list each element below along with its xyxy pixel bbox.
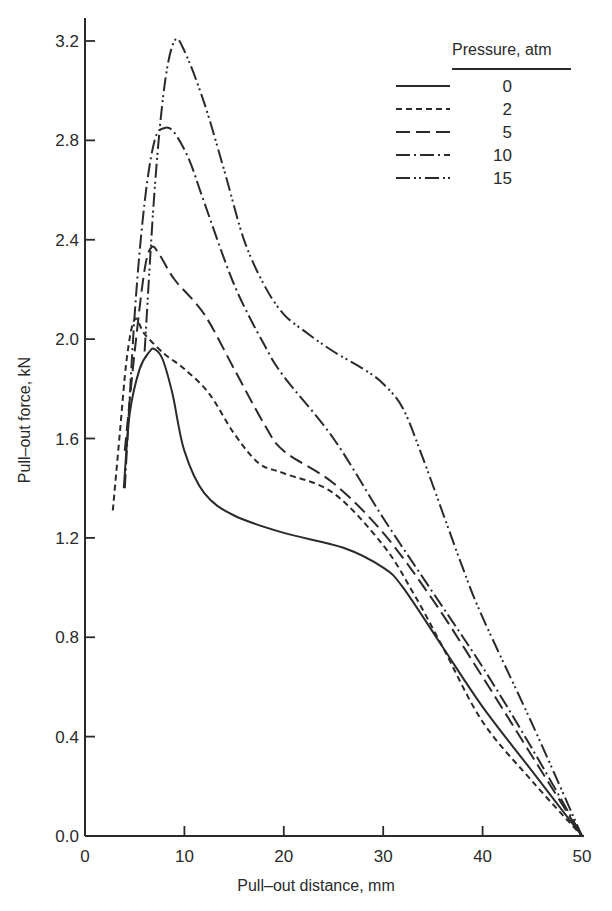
pull-out-force-chart: 0.00.40.81.21.62.02.42.83.2 01020304050 … — [0, 0, 612, 911]
legend-label: 0 — [503, 77, 512, 96]
y-tick-label: 0.8 — [55, 628, 79, 647]
legend-title: Pressure, atm — [452, 41, 552, 58]
x-tick-label: 0 — [80, 847, 89, 866]
series-line-10-atm — [125, 127, 582, 836]
y-tick-label: 1.2 — [55, 529, 79, 548]
x-tick-label: 40 — [473, 847, 492, 866]
y-tick-label: 2.0 — [55, 330, 79, 349]
x-axis-ticks: 01020304050 — [80, 826, 591, 866]
y-tick-label: 2.8 — [55, 131, 79, 150]
legend-item-10: 10 — [396, 146, 512, 165]
legend-item-5: 5 — [396, 123, 512, 142]
series-line-2-atm — [113, 318, 582, 836]
y-tick-label: 2.4 — [55, 231, 79, 250]
legend-label: 5 — [503, 123, 512, 142]
series-line-15-atm — [145, 39, 582, 836]
y-tick-label: 0.0 — [55, 827, 79, 846]
y-tick-label: 1.6 — [55, 430, 79, 449]
series-line-0-atm — [124, 348, 582, 836]
y-axis-title: Pull–out force, kN — [16, 357, 33, 483]
legend-label: 15 — [493, 169, 512, 188]
x-axis-title: Pull–out distance, mm — [237, 877, 394, 894]
legend-items: 0251015 — [396, 77, 512, 188]
legend-item-0: 0 — [396, 77, 512, 96]
x-tick-label: 10 — [175, 847, 194, 866]
y-axis-ticks: 0.00.40.81.21.62.02.42.83.2 — [55, 32, 95, 846]
x-tick-label: 30 — [374, 847, 393, 866]
x-tick-label: 50 — [573, 847, 592, 866]
legend-label: 2 — [503, 100, 512, 119]
y-tick-label: 3.2 — [55, 32, 79, 51]
legend-label: 10 — [493, 146, 512, 165]
legend: Pressure, atm 0251015 — [396, 41, 571, 188]
legend-item-2: 2 — [396, 100, 512, 119]
x-tick-label: 20 — [274, 847, 293, 866]
y-tick-label: 0.4 — [55, 728, 79, 747]
legend-item-15: 15 — [396, 169, 512, 188]
